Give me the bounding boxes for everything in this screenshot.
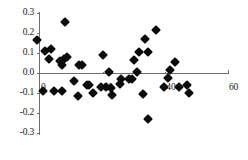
data-point bbox=[98, 50, 108, 60]
y-tick-mark bbox=[37, 53, 40, 54]
data-point bbox=[140, 34, 150, 44]
data-point bbox=[60, 17, 70, 27]
y-tick-label: -0.1 bbox=[2, 87, 34, 97]
y-tick-mark bbox=[37, 33, 40, 34]
data-point bbox=[138, 89, 148, 99]
y-tick-label: 0.1 bbox=[2, 47, 34, 57]
data-point bbox=[143, 114, 153, 124]
scatter-plot-figure: -0.3-0.2-0.10.00.10.20.3 0204060 bbox=[0, 0, 248, 160]
data-point bbox=[88, 88, 98, 98]
data-point bbox=[151, 25, 161, 35]
data-point bbox=[107, 90, 117, 100]
data-point bbox=[129, 55, 139, 65]
data-point bbox=[70, 76, 80, 86]
y-tick-label: 0.0 bbox=[2, 67, 34, 77]
data-point bbox=[170, 57, 180, 67]
y-tick-label: 0.3 bbox=[2, 7, 34, 17]
data-point bbox=[143, 47, 153, 57]
data-point bbox=[73, 91, 83, 101]
y-tick-label: -0.2 bbox=[2, 107, 34, 117]
y-tick-label: 0.2 bbox=[2, 27, 34, 37]
data-point bbox=[184, 88, 194, 98]
data-point bbox=[57, 86, 67, 96]
x-tick-label: 60 bbox=[229, 82, 238, 92]
x-axis-end-cap bbox=[228, 70, 229, 74]
y-tick-mark bbox=[37, 73, 40, 74]
y-tick-mark bbox=[37, 133, 40, 134]
plot-area: -0.3-0.2-0.10.00.10.20.3 0204060 bbox=[0, 0, 248, 160]
y-tick-mark bbox=[37, 113, 40, 114]
data-point bbox=[44, 54, 54, 64]
data-point bbox=[104, 67, 114, 77]
y-tick-label: -0.3 bbox=[2, 127, 34, 137]
y-tick-mark bbox=[37, 13, 40, 14]
